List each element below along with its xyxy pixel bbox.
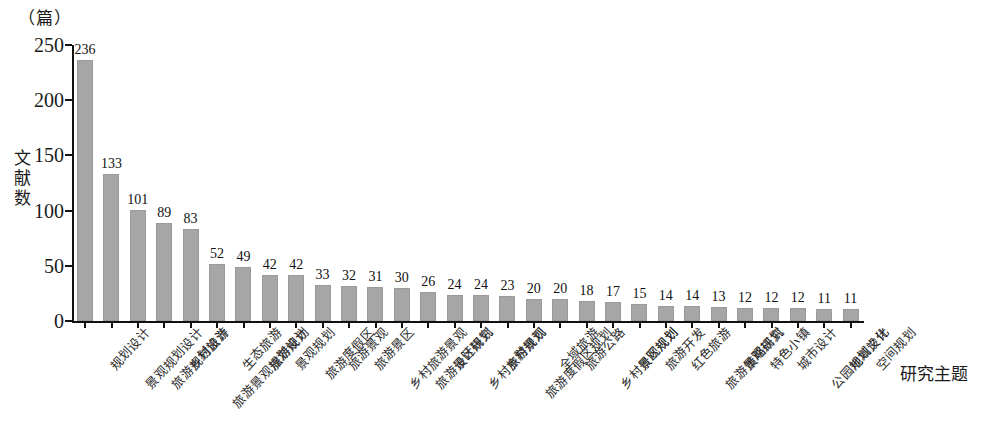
y-axis-tick [65, 210, 72, 212]
bar-slot[interactable]: 13 [706, 45, 732, 321]
bar[interactable] [790, 308, 806, 321]
bar[interactable] [447, 295, 463, 321]
y-axis-tick-label: 0 [18, 311, 64, 331]
bar-slot[interactable]: 20 [521, 45, 547, 321]
bar[interactable] [235, 267, 251, 321]
y-axis-tick [65, 44, 72, 46]
x-axis-category-label: 规划设计 [108, 325, 153, 372]
y-axis-tick [65, 154, 72, 156]
bar-slot[interactable]: 12 [732, 45, 758, 321]
bar[interactable] [816, 309, 832, 321]
x-axis-title: 研究主题 [900, 360, 968, 385]
bar[interactable] [737, 308, 753, 321]
bar-slot[interactable]: 101 [125, 45, 151, 321]
bar[interactable] [631, 304, 647, 321]
bar[interactable] [684, 306, 700, 321]
bar-slot[interactable]: 49 [230, 45, 256, 321]
bar[interactable] [711, 307, 727, 321]
bar[interactable] [130, 210, 146, 322]
unit-label: （篇） [18, 4, 72, 29]
bar[interactable] [77, 60, 93, 321]
bar[interactable] [262, 275, 278, 321]
bar-slot[interactable]: 236 [72, 45, 98, 321]
bar-slot[interactable]: 20 [547, 45, 573, 321]
bar[interactable] [209, 264, 225, 321]
bar-slot[interactable]: 23 [494, 45, 520, 321]
bar[interactable] [315, 285, 331, 321]
bar-slot[interactable]: 11 [838, 45, 864, 321]
bar[interactable] [341, 286, 357, 321]
bar[interactable] [843, 309, 859, 321]
bar[interactable] [367, 287, 383, 321]
y-axis-tick-labels: 050100150200250 [12, 45, 64, 323]
plot-area: 2361331018983524942423332313026242423202… [72, 45, 864, 323]
bar[interactable] [579, 301, 595, 321]
bar-slot[interactable]: 14 [679, 45, 705, 321]
bar[interactable] [526, 299, 542, 321]
y-axis-tick-label: 250 [18, 35, 64, 55]
bar-slot[interactable]: 42 [257, 45, 283, 321]
bar-slot[interactable]: 89 [151, 45, 177, 321]
bar-slot[interactable]: 52 [204, 45, 230, 321]
bar[interactable] [288, 275, 304, 321]
bar[interactable] [156, 223, 172, 321]
bar-slot[interactable]: 83 [178, 45, 204, 321]
y-axis-tick [65, 99, 72, 101]
bar[interactable] [658, 306, 674, 321]
bar[interactable] [394, 288, 410, 321]
bar-slot[interactable]: 18 [574, 45, 600, 321]
bar-slot[interactable]: 133 [98, 45, 124, 321]
bar[interactable] [499, 296, 515, 321]
bar-slot[interactable]: 15 [626, 45, 652, 321]
y-axis-tick-label: 200 [18, 90, 64, 110]
bar-slot[interactable]: 12 [785, 45, 811, 321]
y-axis-tick [65, 320, 72, 322]
bar[interactable] [103, 174, 119, 321]
bar[interactable] [605, 302, 621, 321]
bar[interactable] [183, 229, 199, 321]
bar-value-label: 11 [832, 292, 870, 306]
bar-series: 2361331018983524942423332313026242423202… [72, 45, 864, 323]
bar[interactable] [552, 299, 568, 321]
y-axis-tick-label: 100 [18, 201, 64, 221]
y-axis-tick [65, 265, 72, 267]
bar-slot[interactable]: 17 [600, 45, 626, 321]
bar[interactable] [763, 308, 779, 321]
bar-slot[interactable]: 14 [653, 45, 679, 321]
y-axis-tick-label: 50 [18, 256, 64, 276]
y-axis-tick-label: 150 [18, 145, 64, 165]
bar[interactable] [473, 295, 489, 321]
bar-slot[interactable]: 11 [811, 45, 837, 321]
x-axis-category-label: 乡村景观 [504, 325, 549, 372]
bar[interactable] [420, 292, 436, 321]
bar-chart: （篇） 文献数 050100150200250 2361331018983524… [0, 0, 987, 421]
bar-slot[interactable]: 12 [758, 45, 784, 321]
x-axis-category-labels: 规划设计景观规划设计旅游规划设计乡村旅游旅游景观规划设计生态旅游旅游规划景观规划… [72, 323, 987, 421]
